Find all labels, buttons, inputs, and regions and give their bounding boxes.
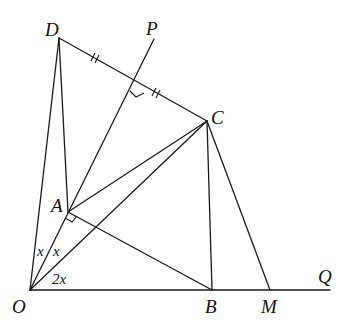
segment-CM: [207, 121, 270, 290]
label-B: B: [205, 296, 217, 317]
label-D: D: [44, 19, 59, 40]
label-P: P: [145, 18, 158, 39]
segment-CB: [207, 121, 212, 290]
segment-DC: [59, 38, 207, 121]
angle-label-AOC: x: [52, 243, 60, 259]
label-M: M: [260, 296, 278, 317]
label-C: C: [211, 107, 224, 128]
geometry-diagram: D P C A O B M Q x x 2x: [0, 0, 348, 322]
angle-label-COB: 2x: [52, 271, 67, 287]
label-O: O: [12, 296, 26, 317]
ray-OP: [30, 39, 154, 290]
segment-DA: [59, 38, 68, 212]
segment-AB: [68, 212, 212, 290]
angle-label-DOA: x: [36, 243, 44, 259]
segment-AC: [68, 121, 207, 212]
label-A: A: [49, 195, 63, 216]
right-angle-mark-OP-DC: [130, 91, 144, 97]
label-Q: Q: [318, 266, 332, 287]
